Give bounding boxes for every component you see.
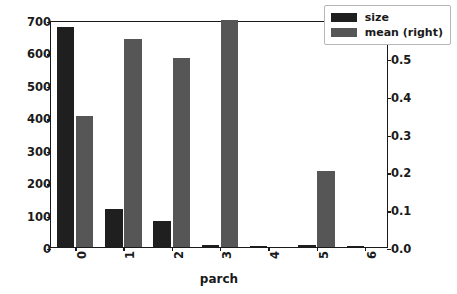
legend-label-mean: mean (right) xyxy=(365,26,443,39)
legend-entry-size: size xyxy=(331,10,443,25)
right-tick-label: 0.3 xyxy=(391,129,435,143)
left-tick-label: 500 xyxy=(5,80,51,94)
bar-size-5 xyxy=(298,245,315,247)
legend-label-size: size xyxy=(365,11,389,24)
right-tick-label: 0.1 xyxy=(391,204,435,218)
left-tick-label: 700 xyxy=(5,15,51,29)
legend-swatch-mean-icon xyxy=(331,28,357,37)
left-tick-label: 300 xyxy=(5,145,51,159)
chart-legend: size mean (right) xyxy=(324,5,451,45)
x-tick-label-1: 1 xyxy=(123,251,137,259)
bar-size-2 xyxy=(153,221,170,247)
x-tick-label-2: 2 xyxy=(172,251,186,259)
x-tick-label-4: 4 xyxy=(268,251,282,259)
right-tick-label: 0.2 xyxy=(391,166,435,180)
bars-layer xyxy=(51,22,387,247)
legend-entry-mean: mean (right) xyxy=(331,25,443,40)
bar-mean-0 xyxy=(76,116,93,247)
right-tick-label: 0.0 xyxy=(391,242,435,256)
bar-size-6 xyxy=(347,246,364,247)
bar-mean-3 xyxy=(221,20,238,247)
x-axis-label: parch xyxy=(50,272,388,286)
bar-mean-5 xyxy=(317,171,334,247)
plot-area: 0100200300400500600700 0.00.10.20.30.40.… xyxy=(50,21,388,248)
bar-size-4 xyxy=(250,246,267,247)
right-tick-label: 0.5 xyxy=(391,53,435,67)
bar-size-1 xyxy=(105,209,122,247)
legend-swatch-size-icon xyxy=(331,13,357,22)
left-tick-label: 100 xyxy=(5,210,51,224)
x-tick-label-0: 0 xyxy=(75,251,89,259)
left-tick-label: 600 xyxy=(5,47,51,61)
left-tick-label: 0 xyxy=(5,242,51,256)
right-tick-label: 0.4 xyxy=(391,91,435,105)
x-tick-label-3: 3 xyxy=(220,251,234,259)
bar-size-3 xyxy=(202,245,219,247)
x-tick-label-5: 5 xyxy=(317,251,331,259)
bar-mean-1 xyxy=(124,39,141,247)
bar-chart-figure: 0100200300400500600700 0.00.10.20.30.40.… xyxy=(0,0,457,294)
x-tick-label-6: 6 xyxy=(365,251,379,259)
left-tick-label: 200 xyxy=(5,177,51,191)
bar-mean-2 xyxy=(173,58,190,247)
bar-size-0 xyxy=(57,27,74,247)
left-tick-label: 400 xyxy=(5,112,51,126)
